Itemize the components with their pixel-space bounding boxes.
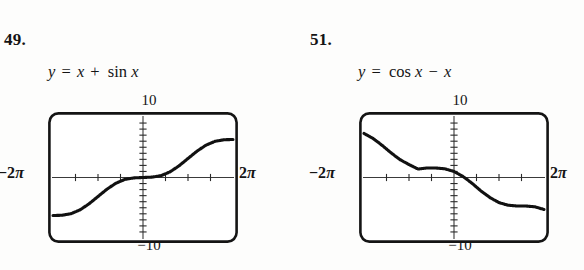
x-max-label-51: 2π	[550, 164, 567, 182]
equation-49-argument: x	[131, 62, 138, 81]
problem-number-51: 51.	[310, 30, 332, 50]
y-max-label-49: 10	[24, 92, 274, 109]
x-min-coefficient-51: −2	[309, 164, 326, 181]
equation-49-lhs: y	[48, 62, 55, 81]
problem-number-49: 49.	[4, 30, 26, 50]
equation-49-function: sin	[106, 62, 127, 81]
equation-51-function: cos	[387, 62, 411, 81]
equation-51: y = cos x − x	[358, 62, 451, 82]
equation-51-lhs: y	[358, 62, 365, 81]
y-max-label-51: 10	[335, 92, 584, 109]
equation-51-equals: =	[369, 62, 382, 81]
equation-49-term1: x	[77, 62, 84, 81]
equation-51-term1: x	[444, 62, 451, 81]
pi-symbol-left-51: π	[326, 164, 335, 181]
x-max-coefficient-51: 2	[550, 164, 558, 181]
calculator-screen-49	[48, 112, 238, 243]
x-max-label-49: 2π	[239, 164, 256, 182]
problem-51: 51. y = cos x − x 10 −2π 2π −10	[292, 0, 584, 270]
x-min-coefficient-49: −2	[0, 164, 15, 181]
x-min-label-51: −2π	[309, 164, 335, 182]
pi-symbol-right-51: π	[558, 164, 567, 181]
x-max-coefficient-49: 2	[239, 164, 247, 181]
pi-symbol-left-49: π	[15, 164, 24, 181]
equation-51-argument: x	[415, 62, 422, 81]
textbook-page: 49. y = x + sin x 10 −2π 2π −10	[0, 0, 584, 270]
equation-49: y = x + sin x	[48, 62, 139, 82]
calculator-screen-51	[359, 112, 549, 243]
equation-49-operator: +	[88, 62, 101, 81]
equation-51-operator: −	[426, 62, 439, 81]
x-min-label-49: −2π	[0, 164, 24, 182]
problem-49: 49. y = x + sin x 10 −2π 2π −10	[0, 0, 292, 270]
pi-symbol-right-49: π	[247, 164, 256, 181]
equation-49-equals: =	[59, 62, 72, 81]
